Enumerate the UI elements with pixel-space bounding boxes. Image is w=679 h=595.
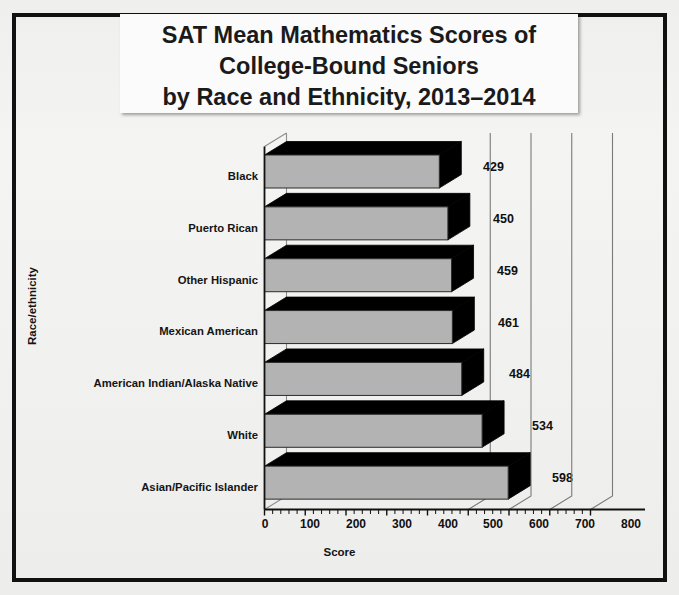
xtick-700: 700 bbox=[565, 517, 605, 531]
title-line-2: College-Bound Seniors bbox=[120, 51, 578, 82]
value-label-mexican-american: 461 bbox=[498, 316, 519, 330]
xtick-300: 300 bbox=[382, 517, 422, 531]
xtick-0: 0 bbox=[245, 517, 285, 531]
xtick-500: 500 bbox=[473, 517, 513, 531]
xtick-100: 100 bbox=[290, 517, 330, 531]
category-label-asian-pacific: Asian/Pacific Islander bbox=[0, 481, 258, 493]
xtick-400: 400 bbox=[428, 517, 468, 531]
value-label-american-indian: 484 bbox=[509, 367, 530, 381]
value-label-white: 534 bbox=[532, 419, 553, 433]
value-label-other-hispanic: 459 bbox=[497, 264, 518, 278]
x-axis-title: Score bbox=[0, 546, 679, 558]
category-label-other-hispanic: Other Hispanic bbox=[0, 274, 258, 286]
value-label-asian-pacific: 598 bbox=[552, 471, 573, 485]
category-label-black: Black bbox=[0, 170, 258, 182]
title-line-3: by Race and Ethnicity, 2013–2014 bbox=[120, 82, 578, 113]
xtick-200: 200 bbox=[336, 517, 376, 531]
y-axis-title: Race/ethnicity bbox=[26, 246, 38, 366]
category-label-american-indian: American Indian/Alaska Native bbox=[0, 377, 258, 389]
category-label-mexican-american: Mexican American bbox=[0, 325, 258, 337]
value-label-black: 429 bbox=[483, 160, 504, 174]
category-label-puerto-rican: Puerto Rican bbox=[0, 222, 258, 234]
chart-title: SAT Mean Mathematics Scores of College-B… bbox=[120, 14, 578, 113]
value-label-puerto-rican: 450 bbox=[493, 212, 514, 226]
category-label-white: White bbox=[0, 429, 258, 441]
title-line-1: SAT Mean Mathematics Scores of bbox=[120, 20, 578, 51]
xtick-600: 600 bbox=[519, 517, 559, 531]
xtick-800: 800 bbox=[611, 517, 651, 531]
